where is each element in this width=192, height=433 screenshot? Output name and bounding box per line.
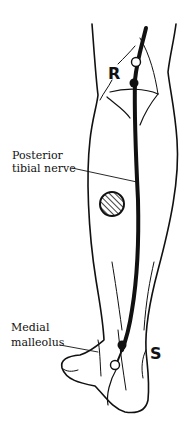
recording-site-label: R [108,64,120,83]
malleolus-label-line2: malleolus [11,337,64,349]
nerve-leader-line [72,168,137,182]
nerve-label-line2: tibial nerve [12,163,76,175]
posterior-tibial-nerve [122,28,146,350]
nerve-label-line1: Posterior [12,150,63,162]
hatched-ground-electrode [100,192,124,216]
filled-electrode-knee [130,79,139,88]
leg-diagram [0,0,192,433]
malleolus-label-line1: Medial [11,322,49,334]
stimulation-site-label: S [150,344,162,363]
open-electrode-knee [132,58,141,67]
open-electrode-ankle [111,361,120,370]
filled-electrode-ankle [118,341,127,350]
